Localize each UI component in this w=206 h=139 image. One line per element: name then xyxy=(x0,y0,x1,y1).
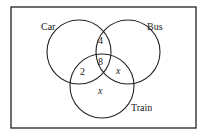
car-label: Car xyxy=(41,22,55,32)
car-circle xyxy=(47,20,111,84)
region-train-only: x xyxy=(98,86,102,96)
region-all: 8 xyxy=(98,57,103,67)
bus-label: Bus xyxy=(147,22,163,32)
region-bus-train: x xyxy=(116,66,120,76)
universal-set-frame xyxy=(11,7,196,128)
region-car-train: 2 xyxy=(80,67,85,77)
venn-diagram xyxy=(0,0,206,139)
region-car-bus: 4 xyxy=(98,36,103,46)
train-label: Train xyxy=(131,103,152,113)
